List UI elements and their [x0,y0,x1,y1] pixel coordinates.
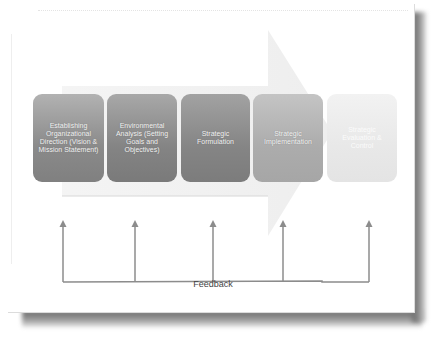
arrow-up-icon [280,220,287,227]
arrow-up-icon [60,220,67,227]
arrow-up-icon [132,220,139,227]
arrow-up-icon [366,220,373,227]
arrow-up-icon [210,220,217,227]
feedback-label: Feedback [180,279,246,289]
